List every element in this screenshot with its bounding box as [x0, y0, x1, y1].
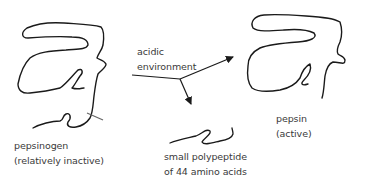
pepsinogen-chain	[18, 23, 106, 128]
pepsin-chain	[247, 15, 345, 98]
reaction-arrow-stem	[132, 75, 180, 79]
pepsin-label: pepsin	[276, 111, 307, 126]
condition-label-line2: environment	[137, 59, 196, 74]
fragment-chain	[170, 128, 233, 144]
pepsin-note: (active)	[276, 126, 312, 141]
fragment-label-line1: small polypeptide	[164, 149, 247, 164]
fragment-label-line2: of 44 amino acids	[164, 164, 247, 179]
pepsinogen-label: pepsinogen	[14, 138, 68, 153]
arrow-to-fragment	[180, 79, 191, 104]
condition-label-line1: acidic	[137, 44, 164, 59]
pepsinogen-note: (relatively inactive)	[14, 153, 104, 168]
